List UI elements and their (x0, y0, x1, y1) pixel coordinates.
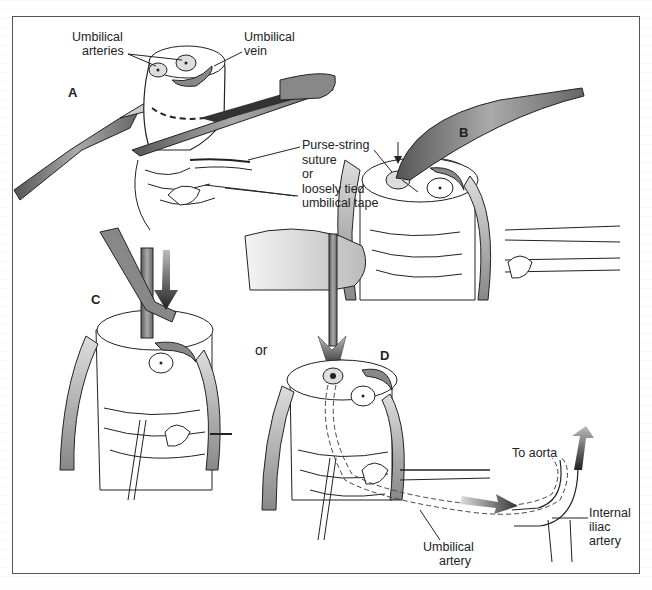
panel-label-d: D (380, 348, 389, 363)
label-line: umbilical tape (302, 196, 378, 211)
label-internal-iliac-artery: Internal iliac artery (589, 506, 631, 548)
panel-b-art (338, 88, 620, 300)
label-line: Umbilical (72, 30, 124, 44)
label-line: arteries (72, 44, 124, 58)
label-to-aorta: To aorta (512, 446, 557, 460)
label-line: Purse-string (302, 138, 378, 153)
label-line: Umbilical (244, 30, 295, 44)
label-line: artery (589, 534, 631, 548)
label-line: suture (302, 153, 378, 168)
label-umbilical-vein: Umbilical vein (244, 30, 295, 58)
panel-label-c: C (91, 292, 100, 307)
panel-label-b: B (459, 125, 468, 140)
label-line: artery (423, 554, 474, 568)
label-line: iliac (589, 520, 631, 534)
label-umbilical-arteries: Umbilical arteries (72, 30, 124, 58)
label-line: Internal (589, 506, 631, 520)
label-line: loosely tied (302, 182, 378, 197)
label-purse-string: Purse-string suture or loosely tied umbi… (302, 138, 378, 211)
label-umbilical-artery: Umbilical artery (423, 540, 474, 568)
label-line: vein (244, 44, 295, 58)
panel-a-art (14, 46, 335, 230)
panel-label-a: A (68, 85, 77, 100)
label-line: Umbilical (423, 540, 474, 554)
or-connector: or (255, 342, 267, 358)
panel-c-art (60, 228, 232, 500)
label-line: or (302, 167, 378, 182)
